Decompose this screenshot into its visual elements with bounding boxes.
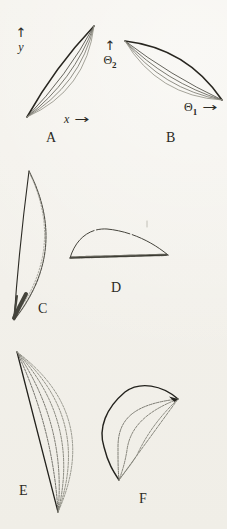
theta2-subscript: 2 [112, 60, 117, 70]
theta1-subscript: 1 [193, 107, 198, 117]
panel-label-d: D [111, 281, 122, 295]
panel-label-a: A [46, 131, 57, 145]
scanned-figure-page: ↑ y x→ A ↑ Θ2 Θ1→ B C D E F [0, 0, 227, 529]
right-arrow-icon: → [202, 101, 217, 113]
panel-d-shape [70, 221, 168, 258]
up-arrow-icon: ↑ [13, 26, 29, 39]
theta1-symbol: Θ [184, 100, 193, 114]
panel-b-curve-family [125, 41, 222, 100]
theta2-axis-label: ↑ Θ2 [102, 39, 118, 67]
panel-c-shape [14, 171, 46, 320]
theta1-axis-label: Θ1→ [184, 101, 212, 113]
panel-label-f: F [139, 492, 147, 506]
y-axis-label: ↑ y [13, 26, 29, 54]
panel-label-e: E [19, 484, 28, 498]
theta2-symbol: Θ [103, 53, 112, 67]
panel-f-curve-family [102, 386, 178, 480]
panel-label-b: B [166, 131, 176, 145]
x-axis-symbol: x [64, 112, 69, 126]
y-axis-symbol: y [18, 40, 23, 54]
panel-a-curve-family [27, 26, 94, 117]
up-arrow-icon: ↑ [102, 39, 118, 52]
figure-curves-canvas [0, 0, 227, 529]
panel-label-c: C [38, 302, 48, 316]
x-axis-label: x→ [64, 113, 84, 125]
right-arrow-icon: → [74, 113, 89, 125]
